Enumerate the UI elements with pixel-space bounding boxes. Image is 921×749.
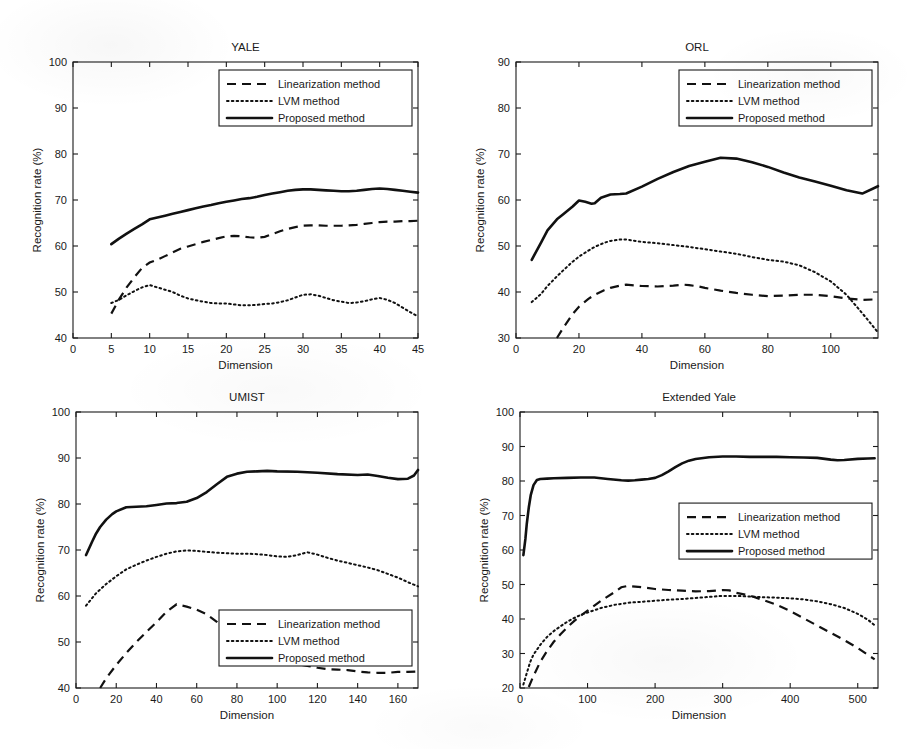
svg-text:500: 500 bbox=[849, 693, 867, 705]
svg-text:90: 90 bbox=[58, 452, 70, 464]
svg-text:70: 70 bbox=[58, 544, 70, 556]
svg-text:0: 0 bbox=[70, 343, 76, 355]
chart-umist[interactable]: UMIST02040608010012014016040506070809010… bbox=[20, 382, 460, 727]
svg-text:80: 80 bbox=[55, 148, 67, 160]
svg-text:30: 30 bbox=[498, 332, 510, 344]
chart-body-yale: YALE051015202530354045405060708090100Dim… bbox=[31, 41, 424, 371]
legend-label: Proposed method bbox=[738, 545, 825, 557]
svg-text:80: 80 bbox=[502, 475, 514, 487]
svg-text:50: 50 bbox=[498, 240, 510, 252]
svg-text:20: 20 bbox=[110, 693, 122, 705]
svg-text:60: 60 bbox=[502, 544, 514, 556]
legend-label: Linearization method bbox=[278, 618, 380, 630]
series-dashed bbox=[529, 586, 875, 687]
svg-text:90: 90 bbox=[502, 441, 514, 453]
legend-label: Linearization method bbox=[738, 78, 840, 90]
chart-extended-yale[interactable]: Extended Yale010020030040050020304050607… bbox=[460, 382, 910, 727]
series-dotted bbox=[86, 550, 418, 605]
svg-text:35: 35 bbox=[335, 343, 347, 355]
svg-text:15: 15 bbox=[182, 343, 194, 355]
legend-umist: Linearization methodLVM methodProposed m… bbox=[219, 610, 412, 666]
series-solid bbox=[532, 158, 878, 260]
legend-label: LVM method bbox=[278, 635, 340, 647]
svg-text:90: 90 bbox=[498, 56, 510, 68]
legend-label: Linearization method bbox=[278, 78, 380, 90]
svg-text:Dimension: Dimension bbox=[672, 709, 726, 721]
chart-body-umist: UMIST02040608010012014016040506070809010… bbox=[34, 391, 418, 721]
svg-text:Dimension: Dimension bbox=[670, 359, 724, 371]
svg-text:160: 160 bbox=[389, 693, 407, 705]
svg-text:20: 20 bbox=[502, 682, 514, 694]
svg-text:80: 80 bbox=[231, 693, 243, 705]
figure-grid: YALE051015202530354045405060708090100Dim… bbox=[0, 0, 921, 749]
svg-text:20: 20 bbox=[573, 343, 585, 355]
svg-text:30: 30 bbox=[297, 343, 309, 355]
svg-text:60: 60 bbox=[58, 590, 70, 602]
svg-text:Dimension: Dimension bbox=[220, 709, 274, 721]
svg-text:100: 100 bbox=[268, 693, 286, 705]
svg-text:60: 60 bbox=[699, 343, 711, 355]
series-dotted bbox=[532, 240, 878, 333]
svg-text:60: 60 bbox=[191, 693, 203, 705]
svg-text:0: 0 bbox=[73, 693, 79, 705]
svg-text:0: 0 bbox=[517, 693, 523, 705]
svg-text:25: 25 bbox=[259, 343, 271, 355]
svg-text:50: 50 bbox=[502, 579, 514, 591]
legend-label: Linearization method bbox=[738, 511, 840, 523]
chart-body-orl: ORL02040608010030405060708090DimensionRe… bbox=[474, 41, 878, 371]
legend-label: Proposed method bbox=[278, 112, 365, 124]
svg-text:40: 40 bbox=[498, 286, 510, 298]
svg-text:YALE: YALE bbox=[231, 41, 260, 53]
svg-text:60: 60 bbox=[498, 194, 510, 206]
svg-text:40: 40 bbox=[150, 693, 162, 705]
svg-text:80: 80 bbox=[498, 102, 510, 114]
panel-extended-yale: Extended Yale010020030040050020304050607… bbox=[460, 382, 910, 727]
svg-text:ORL: ORL bbox=[685, 41, 709, 53]
svg-text:60: 60 bbox=[55, 240, 67, 252]
svg-text:Recognition rate (%): Recognition rate (%) bbox=[31, 147, 43, 252]
panel-yale: YALE051015202530354045405060708090100Dim… bbox=[20, 34, 460, 374]
svg-text:100: 100 bbox=[52, 406, 70, 418]
chart-yale[interactable]: YALE051015202530354045405060708090100Dim… bbox=[20, 34, 460, 374]
svg-text:120: 120 bbox=[308, 693, 326, 705]
series-solid bbox=[86, 470, 418, 555]
svg-text:Dimension: Dimension bbox=[218, 359, 272, 371]
svg-text:90: 90 bbox=[55, 102, 67, 114]
panel-umist: UMIST02040608010012014016040506070809010… bbox=[20, 382, 460, 727]
svg-text:Recognition rate (%): Recognition rate (%) bbox=[34, 497, 46, 602]
svg-text:45: 45 bbox=[412, 343, 424, 355]
svg-text:100: 100 bbox=[578, 693, 596, 705]
svg-text:50: 50 bbox=[58, 636, 70, 648]
svg-text:400: 400 bbox=[781, 693, 799, 705]
svg-text:5: 5 bbox=[108, 343, 114, 355]
svg-text:100: 100 bbox=[822, 343, 840, 355]
series-dashed bbox=[557, 285, 878, 338]
chart-orl[interactable]: ORL02040608010030405060708090DimensionRe… bbox=[460, 34, 910, 374]
series-dotted bbox=[523, 596, 874, 685]
svg-text:80: 80 bbox=[762, 343, 774, 355]
svg-text:40: 40 bbox=[374, 343, 386, 355]
legend-extended-yale: Linearization methodLVM methodProposed m… bbox=[679, 503, 872, 559]
svg-text:Extended Yale: Extended Yale bbox=[662, 391, 736, 403]
svg-text:Recognition rate (%): Recognition rate (%) bbox=[478, 497, 490, 602]
svg-text:70: 70 bbox=[502, 510, 514, 522]
svg-text:10: 10 bbox=[144, 343, 156, 355]
svg-text:40: 40 bbox=[502, 613, 514, 625]
svg-text:20: 20 bbox=[220, 343, 232, 355]
legend-label: LVM method bbox=[278, 95, 340, 107]
svg-text:100: 100 bbox=[496, 406, 514, 418]
legend-yale: Linearization methodLVM methodProposed m… bbox=[219, 70, 412, 126]
svg-text:Recognition rate (%): Recognition rate (%) bbox=[474, 147, 486, 252]
chart-body-extended-yale: Extended Yale010020030040050020304050607… bbox=[478, 391, 878, 721]
svg-text:40: 40 bbox=[636, 343, 648, 355]
svg-text:300: 300 bbox=[713, 693, 731, 705]
svg-text:100: 100 bbox=[49, 56, 67, 68]
legend-label: LVM method bbox=[738, 528, 800, 540]
legend-label: Proposed method bbox=[278, 652, 365, 664]
svg-text:140: 140 bbox=[348, 693, 366, 705]
panel-orl: ORL02040608010030405060708090DimensionRe… bbox=[460, 34, 910, 374]
svg-text:70: 70 bbox=[498, 148, 510, 160]
svg-text:30: 30 bbox=[502, 648, 514, 660]
legend-label: Proposed method bbox=[738, 112, 825, 124]
legend-label: LVM method bbox=[738, 95, 800, 107]
